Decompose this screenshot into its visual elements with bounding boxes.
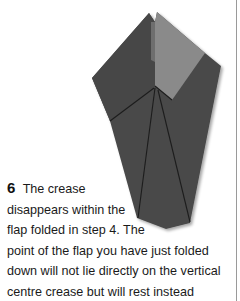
step-caption: 6 The crease disappears within the flap … bbox=[7, 178, 235, 301]
caption-line: centre crease but will rest instead bbox=[7, 282, 235, 301]
caption-line: flap folded in step 4. The bbox=[7, 220, 235, 241]
paper-flap-edge bbox=[151, 22, 155, 62]
page-gutter-line bbox=[236, 0, 237, 301]
caption-line: down will not lie directly on the vertic… bbox=[7, 261, 235, 282]
caption-line: disappears within the bbox=[7, 200, 235, 221]
caption-line: point of the flap you have just folded bbox=[7, 241, 235, 262]
step-number: 6 bbox=[7, 179, 15, 196]
caption-line: 6 The crease bbox=[7, 178, 235, 200]
